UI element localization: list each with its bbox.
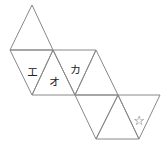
octahedron-net: エ オ カ ☆ [0,0,166,149]
star-icon: ☆ [133,113,145,128]
label-ka: カ [70,64,81,77]
label-e: エ [27,66,38,79]
label-o: オ [49,76,60,89]
triangle-6 [75,95,118,139]
triangle-5 [75,50,118,95]
triangle-top [10,5,53,50]
